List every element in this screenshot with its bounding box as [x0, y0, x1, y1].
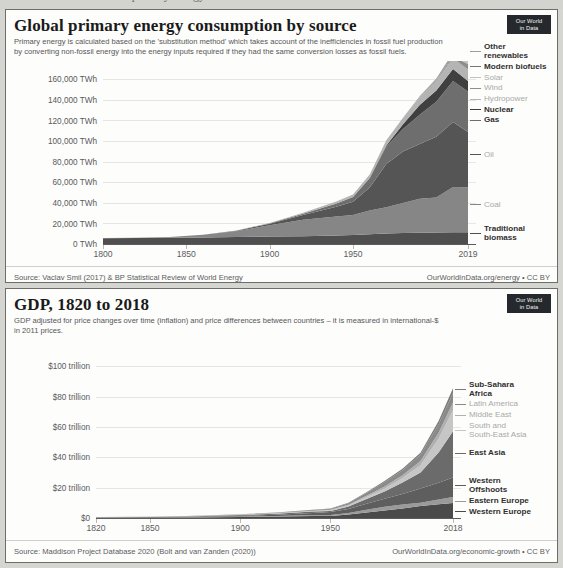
legend-label-traditional-biomass[interactable]: Traditional biomass	[484, 224, 525, 242]
legend-label-western-europe[interactable]: Western Europe	[469, 507, 531, 516]
legend-connector	[455, 453, 466, 454]
legend-label-south-and-south-east-asia[interactable]: South and South-East Asia	[469, 421, 527, 439]
legend-connector	[455, 430, 466, 431]
legend-label-hydropower[interactable]: Hydropower	[484, 94, 528, 103]
chart-header-energy: Global primary energy consumption by sou…	[6, 10, 557, 61]
legend-connector	[470, 154, 481, 155]
owid-logo-gdp[interactable]: Our World in Data	[507, 294, 551, 313]
legend-connector	[470, 99, 481, 100]
chart-subtitle-gdp: GDP adjusted for price changes over time…	[14, 316, 444, 338]
x-axis-tick-label: 1900	[231, 523, 250, 533]
cutoff-top-text-strip: Global primary energy	[0, 0, 563, 9]
chart-subtitle-energy: Primary energy is calculated based on th…	[14, 37, 444, 59]
legend-connector	[470, 66, 481, 67]
chart-plot-gdp[interactable]: $0$20 trillion$40 trillion$60 trillion$8…	[6, 340, 557, 540]
legend-connector	[470, 109, 481, 110]
legend-label-eastern-europe[interactable]: Eastern Europe	[469, 496, 529, 505]
legend-connector	[470, 51, 481, 52]
legend-label-latin-america[interactable]: Latin America	[469, 399, 518, 408]
owid-logo-line1: Our World	[507, 18, 551, 25]
source-note-energy: Source: Vaclav Smil (2017) & BP Statisti…	[14, 273, 243, 282]
stacked-area-canvas	[6, 61, 559, 266]
legend-connector	[455, 415, 466, 416]
legend-label-western-offshoots[interactable]: Western Offshoots	[469, 476, 507, 494]
legend-label-modern-biofuels[interactable]: Modern biofuels	[484, 62, 547, 71]
legend-connector	[455, 389, 466, 390]
owid-logo-line1: Our World	[507, 297, 551, 304]
x-axis-tick-label: 1850	[177, 249, 196, 259]
source-link-gdp[interactable]: OurWorldInData.org/economic-growth • CC …	[392, 547, 550, 556]
legend-label-oil[interactable]: Oil	[484, 150, 494, 159]
owid-logo-line2: in Data	[507, 304, 551, 311]
chart-footer-energy: Source: Vaclav Smil (2017) & BP Statisti…	[6, 266, 557, 287]
legend-label-coal[interactable]: Coal	[484, 200, 501, 209]
chart-footer-gdp: Source: Maddison Project Database 2020 (…	[6, 540, 557, 561]
x-axis-tick-label: 2018	[443, 523, 462, 533]
legend-label-wind[interactable]: Wind	[484, 83, 502, 92]
owid-logo-line2: in Data	[507, 25, 551, 32]
page-title-gdp: GDP, 1820 to 2018	[14, 295, 497, 315]
legend-label-solar[interactable]: Solar	[484, 73, 503, 82]
x-axis-tick-label: 1950	[343, 249, 362, 259]
legend-label-middle-east[interactable]: Middle East	[469, 410, 511, 419]
chart-card-gdp: GDP, 1820 to 2018 GDP adjusted for price…	[5, 288, 558, 563]
chart-header-gdp: GDP, 1820 to 2018 GDP adjusted for price…	[6, 289, 557, 340]
source-note-gdp: Source: Maddison Project Database 2020 (…	[14, 547, 256, 556]
x-axis-tick-label: 1820	[86, 523, 105, 533]
legend-connector	[470, 233, 481, 234]
x-axis-tick-label: 1900	[260, 249, 279, 259]
legend-connector	[470, 77, 481, 78]
legend-label-nuclear[interactable]: Nuclear	[484, 105, 514, 114]
legend-connector	[470, 120, 481, 121]
legend-connector	[470, 204, 481, 205]
legend-connector	[455, 404, 466, 405]
x-axis-tick-label: 2019	[458, 249, 477, 259]
legend-label-sub-sahara-africa[interactable]: Sub-Sahara Africa	[469, 380, 514, 398]
source-link-energy[interactable]: OurWorldInData.org/energy • CC BY	[427, 273, 550, 282]
legend-label-other-renewables[interactable]: Other renewables	[484, 42, 528, 60]
x-axis-tick-label: 1950	[321, 523, 340, 533]
owid-logo-energy[interactable]: Our World in Data	[507, 15, 551, 34]
page-title-energy: Global primary energy consumption by sou…	[14, 16, 497, 36]
cutoff-top-text: Global primary energy	[96, 0, 205, 3]
legend-connector	[455, 485, 466, 486]
legend-label-east-asia[interactable]: East Asia	[469, 448, 505, 457]
x-axis-tick-label: 1800	[93, 249, 112, 259]
legend-label-gas[interactable]: Gas	[484, 115, 499, 124]
legend-connector	[455, 511, 466, 512]
legend-connector	[470, 88, 481, 89]
legend-connector	[455, 501, 466, 502]
chart-card-energy: Global primary energy consumption by sou…	[5, 9, 558, 283]
page-root: Global primary energy Global primary ene…	[0, 0, 563, 568]
x-axis-tick-label: 1850	[141, 523, 160, 533]
chart-plot-energy[interactable]: 0 TWh20,000 TWh40,000 TWh60,000 TWh80,00…	[6, 61, 557, 266]
